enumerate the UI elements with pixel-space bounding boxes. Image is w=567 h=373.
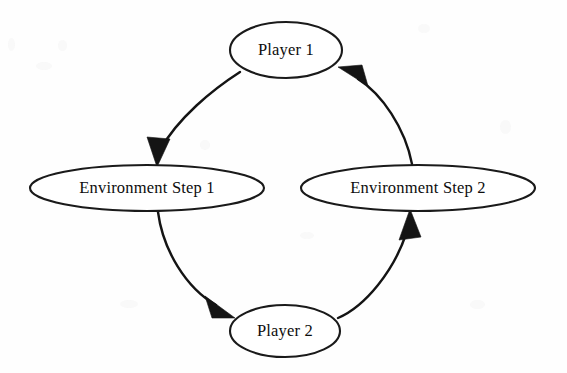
node-label-player-2: Player 2 [257,321,313,340]
edge-curve [358,79,412,164]
node-label-player-1: Player 1 [258,40,314,59]
edge-curve [158,212,216,305]
edge-player1-to-env1 [147,72,240,167]
node-label-environment-step-1: Environment Step 1 [79,178,215,197]
edge-env2-to-player1 [338,65,412,164]
node-environment-step-1[interactable]: Environment Step 1 [30,165,264,211]
edge-env1-to-player2 [158,212,235,318]
edge-player2-to-env2 [338,209,421,318]
node-label-environment-step-2: Environment Step 2 [350,178,486,197]
edge-curve [338,234,406,318]
cycle-diagram: Player 1 Environment Step 1 Environment … [0,0,567,373]
node-environment-step-2[interactable]: Environment Step 2 [301,165,535,211]
arrowhead-down-icon [147,137,170,167]
diagram-canvas: Player 1 Environment Step 1 Environment … [0,0,567,373]
node-player-1[interactable]: Player 1 [230,22,342,78]
arrowhead-up-icon [399,209,421,240]
arrowhead-down-right-icon [205,296,235,318]
node-player-2[interactable]: Player 2 [230,305,340,357]
edge-curve [160,72,240,150]
arrowhead-up-left-icon [338,65,368,86]
